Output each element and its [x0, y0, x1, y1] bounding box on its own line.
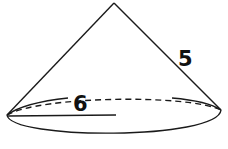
slant-height-label: 5 [178, 47, 193, 71]
cone-right-side [114, 3, 221, 110]
base-back-arc-dashed [7, 99, 221, 115]
radius-line [8, 115, 116, 116]
cone-diagram: 5 6 [0, 0, 228, 149]
radius-label: 6 [73, 92, 88, 116]
base-front-arc [7, 110, 221, 133]
